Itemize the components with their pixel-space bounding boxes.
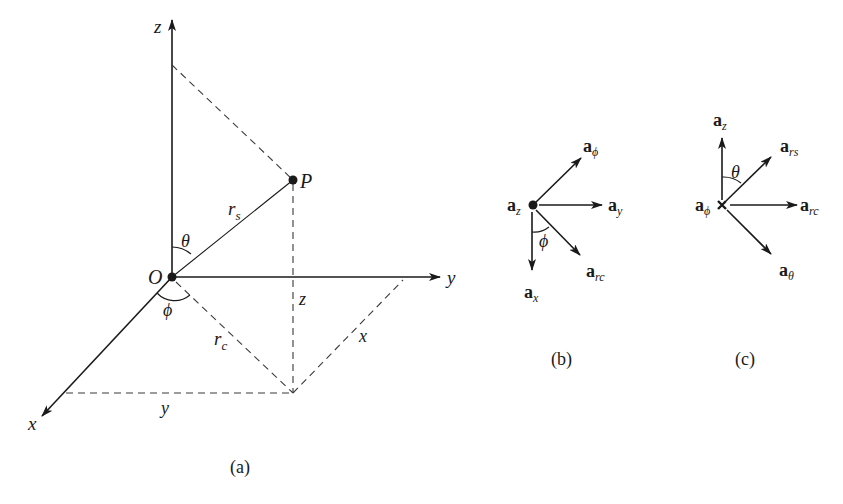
x-axis-label: x xyxy=(27,413,37,434)
a-rc-label-c: arc xyxy=(800,195,819,218)
phi-label-b: ϕ xyxy=(539,231,548,251)
a-x-label: ax xyxy=(524,282,539,305)
x-parallel-dashed xyxy=(293,280,403,393)
r-c-label: rc xyxy=(214,328,227,353)
point-p-label: P xyxy=(299,170,312,192)
a-z-center-label: az xyxy=(507,195,521,218)
a-theta-vector xyxy=(727,210,771,254)
a-phi-vector xyxy=(533,158,581,205)
panel-b: aϕ ay arc ax az ϕ (b) xyxy=(507,136,623,370)
x-axis xyxy=(42,277,172,416)
theta-label-c: θ xyxy=(731,162,740,182)
a-rc-label: arc xyxy=(586,261,605,284)
origin-point xyxy=(168,273,177,282)
a-rs-label: ars xyxy=(780,136,799,159)
phi-label: ϕ xyxy=(163,300,172,320)
z-projection-dashed xyxy=(172,65,293,180)
panel-c: az ars arc aθ aϕ θ (c) xyxy=(695,110,819,370)
center-dot-b xyxy=(529,201,538,210)
a-y-label: ay xyxy=(608,195,623,218)
a-phi-label: aϕ xyxy=(583,136,598,159)
caption-c: (c) xyxy=(735,349,755,370)
caption-b: (b) xyxy=(551,349,572,370)
r-c-dashed xyxy=(176,282,293,393)
caption-a: (a) xyxy=(230,457,250,478)
origin-label: O xyxy=(148,266,162,288)
r-s-line xyxy=(172,180,293,277)
coordinate-systems-figure: z y x O P rs rc θ ϕ z x y (a) aϕ ay arc … xyxy=(0,0,843,504)
r-s-label: rs xyxy=(228,198,240,223)
y-axis-label: y xyxy=(445,267,456,288)
y-length-label: y xyxy=(159,398,169,418)
into-page-cross-icon xyxy=(718,201,726,209)
a-z-label-c: az xyxy=(713,110,727,133)
panel-a: z y x O P rs rc θ ϕ z x y (a) xyxy=(27,16,456,478)
point-p xyxy=(289,176,298,185)
x-length-label: x xyxy=(358,326,367,346)
a-theta-label: aθ xyxy=(779,260,794,283)
theta-label: θ xyxy=(181,231,190,251)
z-axis-label: z xyxy=(153,16,162,37)
phi-arc xyxy=(157,293,190,301)
a-phi-center-label: aϕ xyxy=(695,195,710,218)
z-length-label: z xyxy=(298,289,306,309)
